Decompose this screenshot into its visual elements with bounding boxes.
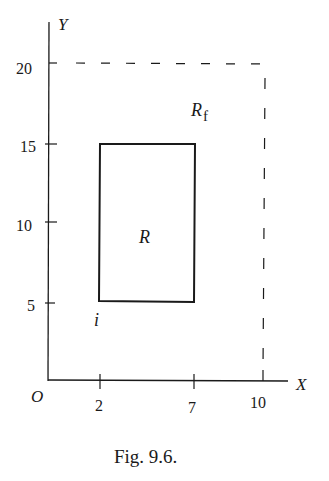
inner-region-rectangle (99, 144, 195, 302)
x-axis (48, 380, 288, 381)
outer-region-right-edge (263, 78, 265, 370)
outer-region-top-edge (76, 63, 266, 64)
origin-label: O (31, 387, 43, 406)
y-axis-label: Y (58, 15, 69, 34)
x-tick-label-2: 2 (95, 397, 103, 414)
inner-region-label: R (138, 227, 150, 247)
outer-region-label-main: R (190, 100, 202, 120)
figure-diagram: 20 15 10 5 2 7 10 Y X O R Rf i Fig. 9.6. (0, 0, 329, 481)
y-tick-label-15: 15 (20, 138, 36, 155)
x-tick-label-10: 10 (250, 394, 266, 411)
y-tick-label-5: 5 (27, 297, 35, 314)
outer-region-label-subscript: f (203, 108, 208, 124)
point-label-i: i (94, 310, 99, 330)
outer-region-label: Rf (190, 100, 208, 124)
x-axis-label: X (295, 375, 307, 394)
y-tick-label-10: 10 (16, 217, 32, 234)
x-tick-label-7: 7 (188, 399, 196, 416)
y-axis (48, 22, 49, 381)
y-tick-label-20: 20 (16, 60, 32, 77)
figure-caption: Fig. 9.6. (114, 446, 177, 467)
